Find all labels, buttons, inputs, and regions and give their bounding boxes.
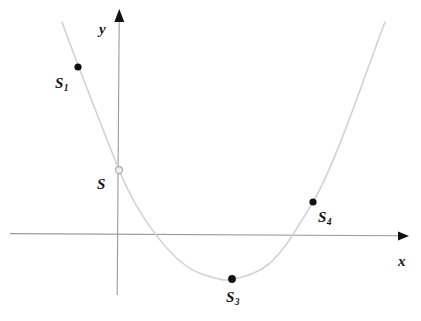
y-axis-line: [117, 18, 119, 295]
y-axis-arrow-icon: [114, 9, 124, 22]
point-label-s1-subscript: 1: [64, 83, 69, 93]
point-marker-s3[interactable]: [228, 275, 236, 283]
point-label-s1: S1: [55, 76, 68, 91]
x-axis-line: [10, 234, 399, 236]
point-label-s4-base: S: [318, 209, 326, 225]
parabola-curve: [62, 22, 385, 280]
point-label-s-base: S: [97, 176, 105, 192]
point-marker-s[interactable]: [116, 167, 123, 174]
figure-canvas: [0, 0, 421, 321]
point-marker-s1[interactable]: [74, 63, 81, 70]
point-label-s: S: [97, 177, 105, 192]
point-label-s4: S4: [318, 210, 331, 225]
point-label-s4-subscript: 4: [327, 217, 332, 227]
y-axis-label: y: [99, 22, 106, 37]
parabola-figure: y x S1 S S3 S4: [0, 0, 421, 321]
point-label-s1-base: S: [55, 75, 63, 91]
point-label-s3-base: S: [226, 289, 234, 305]
point-label-s3: S3: [226, 290, 239, 305]
x-axis-arrow-icon: [398, 231, 409, 240]
x-axis-label: x: [398, 254, 406, 269]
point-marker-s4[interactable]: [309, 198, 316, 205]
point-label-s3-subscript: 3: [235, 297, 240, 307]
